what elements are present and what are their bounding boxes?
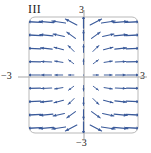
direction-field-figure: III 3 −3 −3 3 bbox=[0, 0, 151, 153]
field-marker bbox=[83, 74, 84, 75]
plot-area bbox=[0, 0, 151, 153]
